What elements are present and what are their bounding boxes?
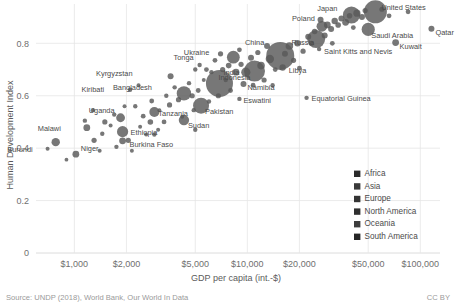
- data-point[interactable]: [261, 77, 266, 82]
- data-point[interactable]: [130, 149, 134, 153]
- data-point[interactable]: [213, 58, 218, 63]
- point-label-namibia: Namibia: [247, 83, 275, 92]
- point-label-equatorial-guinea: Equatorial Guinea: [312, 94, 372, 103]
- data-point[interactable]: [204, 67, 209, 72]
- source-note: Source: UNDP (2018), World Bank, Our Wor…: [6, 293, 189, 302]
- data-point-burundi[interactable]: [52, 138, 60, 146]
- point-label-ethiopia: Ethiopia: [131, 128, 159, 137]
- legend-swatch-europe[interactable]: [354, 196, 360, 202]
- data-point[interactable]: [164, 94, 168, 98]
- data-point[interactable]: [172, 85, 176, 89]
- legend-swatch-africa[interactable]: [354, 171, 360, 177]
- y-tick-label-0: 0: [24, 248, 29, 258]
- point-label-pakistan: Pakistan: [205, 107, 233, 116]
- data-point[interactable]: [255, 50, 260, 55]
- data-point[interactable]: [148, 119, 154, 125]
- point-label-united-states: United States: [381, 3, 426, 12]
- x-tick-label-5: $50,000: [352, 259, 385, 269]
- legend-label-europe[interactable]: Europe: [365, 194, 392, 203]
- data-point-ukraine[interactable]: [227, 51, 240, 64]
- y-axis-title: Human Development Index: [5, 80, 15, 190]
- data-point[interactable]: [387, 13, 392, 18]
- data-point[interactable]: [65, 158, 69, 162]
- data-point[interactable]: [193, 67, 197, 71]
- data-point-niger[interactable]: [72, 151, 79, 158]
- data-point-equatorial-guinea[interactable]: [304, 96, 308, 100]
- point-label-indonesia: Indonesia: [218, 73, 251, 82]
- data-point[interactable]: [196, 88, 201, 93]
- data-point[interactable]: [109, 124, 113, 128]
- point-label-niger: Niger: [81, 144, 99, 153]
- legend-swatch-asia[interactable]: [354, 183, 360, 189]
- point-label-sudan: Sudan: [188, 121, 209, 130]
- data-point[interactable]: [46, 147, 50, 151]
- point-label-eswatini: Eswatini: [243, 96, 271, 105]
- point-label-china: China: [245, 38, 265, 47]
- legend-swatch-north-america[interactable]: [354, 208, 360, 214]
- data-point-qatar[interactable]: [428, 26, 434, 32]
- point-label-kyrgyzstan: Kyrgyzstan: [96, 69, 133, 78]
- point-label-poland: Poland: [292, 14, 315, 23]
- data-point-bangladesh[interactable]: [177, 86, 191, 100]
- data-point-burkina-faso[interactable]: [119, 137, 126, 144]
- data-point[interactable]: [100, 132, 104, 136]
- x-axis-title: GDP per capita (int.-$): [191, 273, 281, 283]
- data-point[interactable]: [332, 18, 338, 24]
- point-label-malawi: Malawi: [38, 124, 61, 133]
- data-point-ethiopia[interactable]: [117, 126, 128, 137]
- point-label-qatar: Qatar: [435, 28, 454, 37]
- data-point[interactable]: [91, 138, 96, 143]
- point-label-bangladesh: Bangladesh: [113, 83, 152, 92]
- point-label-kuwait: Kuwait: [400, 42, 422, 51]
- legend-label-asia[interactable]: Asia: [365, 182, 381, 191]
- data-point[interactable]: [351, 25, 356, 30]
- data-point[interactable]: [162, 120, 167, 125]
- hdi-vs-gdp-scatter-chart: 00.20.40.60.8 $1,000$2,000$5,000$10,000$…: [0, 0, 457, 308]
- point-label-libya: Libya: [289, 66, 308, 75]
- data-point-malawi[interactable]: [83, 124, 90, 131]
- data-point[interactable]: [187, 81, 191, 85]
- data-point[interactable]: [248, 55, 254, 61]
- data-point[interactable]: [300, 49, 305, 54]
- y-tick-label-4: 0.8: [16, 39, 29, 49]
- x-tick-label-4: $20,000: [283, 259, 316, 269]
- data-point-uganda[interactable]: [116, 113, 125, 122]
- point-label-saint-kitts-and-nevis: Saint Kitts and Nevis: [324, 47, 392, 56]
- data-point[interactable]: [237, 47, 242, 52]
- license-label: CC BY: [427, 293, 450, 302]
- legend-label-oceania[interactable]: Oceania: [365, 219, 396, 228]
- point-label-uganda: Uganda: [89, 106, 116, 115]
- data-point[interactable]: [114, 145, 118, 149]
- data-point[interactable]: [102, 119, 107, 124]
- data-point[interactable]: [167, 102, 172, 107]
- legend[interactable]: AfricaAsiaEuropeNorth AmericaOceaniaSout…: [354, 169, 418, 241]
- data-point-tonga[interactable]: [197, 63, 201, 67]
- x-tick-label-6: $100,000: [402, 259, 440, 269]
- legend-swatch-oceania[interactable]: [354, 221, 360, 227]
- data-point[interactable]: [133, 104, 137, 108]
- x-tick-label-0: $1,000: [61, 259, 89, 269]
- chart-svg: 00.20.40.60.8 $1,000$2,000$5,000$10,000$…: [0, 0, 457, 308]
- y-tick-label-3: 0.6: [16, 91, 29, 101]
- data-point-poland[interactable]: [317, 21, 328, 32]
- legend-label-africa[interactable]: Africa: [365, 169, 386, 178]
- data-point[interactable]: [123, 104, 127, 108]
- data-point[interactable]: [141, 114, 146, 119]
- point-label-kiribati: Kiribati: [82, 85, 105, 94]
- y-tick-label-1: 0.2: [16, 196, 29, 206]
- point-label-saudi-arabia: Saudi Arabia: [371, 31, 414, 40]
- data-point[interactable]: [202, 78, 206, 82]
- data-point-kyrgyzstan[interactable]: [168, 73, 174, 79]
- data-point[interactable]: [238, 62, 243, 67]
- data-point[interactable]: [218, 51, 223, 56]
- legend-swatch-south-america[interactable]: [354, 234, 360, 240]
- data-point[interactable]: [83, 118, 87, 122]
- point-label-japan: Japan: [317, 4, 337, 13]
- data-point[interactable]: [330, 41, 335, 46]
- data-point[interactable]: [149, 99, 154, 104]
- point-label-tanzania: Tanzania: [158, 109, 188, 118]
- legend-label-north-america[interactable]: North America: [365, 207, 417, 216]
- data-point-japan[interactable]: [343, 6, 360, 23]
- data-point-eswatini[interactable]: [237, 97, 241, 101]
- legend-label-south-america[interactable]: South America: [365, 232, 419, 241]
